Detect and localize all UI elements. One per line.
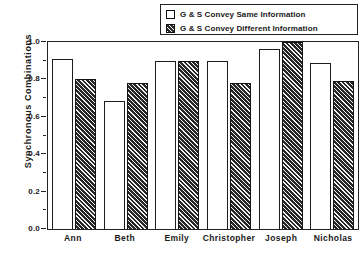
y-tick-label: 0.2 bbox=[28, 186, 40, 195]
legend-item-different: G & S Convey Different Information bbox=[166, 22, 353, 34]
y-tick-mark-minor bbox=[43, 135, 46, 136]
bar-same bbox=[207, 61, 228, 229]
bar-same bbox=[310, 63, 331, 229]
x-tick-label: Nicholas bbox=[307, 233, 359, 243]
y-tick-mark bbox=[41, 78, 46, 79]
y-tick-mark bbox=[41, 153, 46, 154]
y-tick-mark-minor bbox=[43, 172, 46, 173]
bar-same bbox=[259, 49, 280, 229]
y-tick-mark bbox=[41, 116, 46, 117]
y-axis-ticks: 0.00.20.40.60.81.0 bbox=[22, 36, 46, 232]
y-tick-mark-minor bbox=[43, 97, 46, 98]
bar-group bbox=[255, 42, 307, 229]
x-tick-label: Emily bbox=[151, 233, 203, 243]
y-tick-mark-minor bbox=[43, 60, 46, 61]
legend-item-same: G & S Convey Same Information bbox=[166, 8, 353, 20]
bar-group bbox=[203, 42, 255, 229]
bar-chart-figure: G & S Convey Same Information G & S Conv… bbox=[0, 0, 364, 260]
legend-label-different: G & S Convey Different Information bbox=[180, 24, 318, 33]
bar-different bbox=[282, 42, 303, 229]
bar-group bbox=[151, 42, 203, 229]
legend-label-same: G & S Convey Same Information bbox=[180, 10, 306, 19]
bar-group bbox=[48, 42, 100, 229]
bar-different bbox=[178, 61, 199, 229]
bar-different bbox=[333, 81, 354, 229]
x-tick-label: Joseph bbox=[255, 233, 307, 243]
y-tick-mark bbox=[41, 228, 46, 229]
bar-same bbox=[104, 101, 125, 229]
bar-groups bbox=[48, 42, 358, 229]
bar-group bbox=[306, 42, 358, 229]
x-tick-label: Christopher bbox=[203, 233, 256, 243]
y-tick-label: 0.0 bbox=[28, 224, 40, 233]
y-tick-label: 1.0 bbox=[28, 37, 40, 46]
bar-different bbox=[75, 79, 96, 229]
bar-different bbox=[230, 83, 251, 229]
bar-group bbox=[100, 42, 152, 229]
plot-area bbox=[47, 41, 359, 230]
x-axis-labels: AnnBethEmilyChristopherJosephNicholas bbox=[47, 233, 359, 243]
legend-swatch-same-icon bbox=[166, 10, 175, 19]
y-tick-mark-minor bbox=[43, 209, 46, 210]
x-tick-label: Beth bbox=[99, 233, 151, 243]
bar-same bbox=[155, 61, 176, 229]
y-tick-mark bbox=[41, 191, 46, 192]
y-tick-mark bbox=[41, 41, 46, 42]
chart-legend: G & S Convey Same Information G & S Conv… bbox=[160, 4, 358, 35]
y-tick-label: 0.8 bbox=[28, 74, 40, 83]
bar-different bbox=[127, 83, 148, 229]
x-tick-label: Ann bbox=[47, 233, 99, 243]
bar-same bbox=[52, 59, 73, 229]
y-tick-label: 0.4 bbox=[28, 149, 40, 158]
y-tick-label: 0.6 bbox=[28, 111, 40, 120]
legend-swatch-different-icon bbox=[166, 24, 175, 33]
